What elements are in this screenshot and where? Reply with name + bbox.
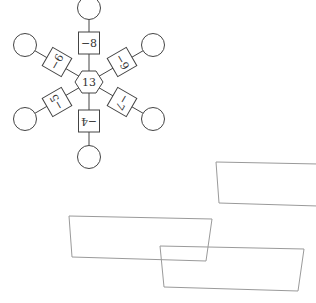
value-box: −6 (42, 47, 72, 76)
value-box: −4 (79, 110, 100, 132)
diagram-canvas: −8−9−7−4−5−6 13 (0, 0, 316, 303)
empty-circle (142, 34, 165, 57)
value-box: −5 (42, 87, 72, 116)
quadrilaterals (69, 162, 316, 291)
empty-circle (14, 34, 37, 57)
empty-circle (14, 108, 37, 131)
quadrilateral (216, 162, 316, 206)
empty-circle (78, 0, 101, 20)
center-hexagon: 13 (75, 71, 103, 93)
empty-circle (142, 108, 165, 131)
value-box: −9 (107, 47, 137, 76)
value-box: −7 (107, 87, 137, 116)
box-value: −4 (81, 115, 97, 128)
quadrilateral (69, 216, 212, 261)
center-value: 13 (82, 76, 96, 89)
box-value: −8 (81, 37, 97, 50)
value-box: −8 (79, 32, 100, 54)
quadrilateral (160, 246, 304, 291)
empty-circle (78, 146, 101, 169)
